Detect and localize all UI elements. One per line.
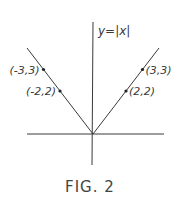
point-label: (-2,2) [26,85,56,98]
point-label: (3,3) [146,64,172,77]
point-label: (-3,3) [9,64,39,77]
point-label: (2,2) [129,85,155,98]
data-point [58,89,61,92]
data-point [42,68,45,71]
data-point [141,68,144,71]
figure-caption: FIG. 2 [65,178,115,196]
y-axis [92,22,93,165]
data-point [124,89,127,92]
chart: y=|x| (-3,3)(-2,2)(2,2)(3,3) FIG. 2 [0,0,183,202]
function-label: y=|x| [97,24,130,38]
